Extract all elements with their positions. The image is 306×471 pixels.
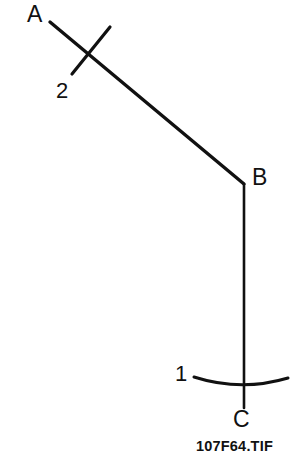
vertex-label-b: B bbox=[252, 166, 267, 189]
vertex-label-a: A bbox=[27, 3, 42, 26]
figure-root: A B C 2 1 107F64.TIF bbox=[0, 0, 306, 471]
diagram-canvas bbox=[0, 0, 306, 471]
tick-label-2: 2 bbox=[56, 80, 68, 102]
filename-caption: 107F64.TIF bbox=[196, 439, 273, 454]
canvas-background bbox=[0, 0, 306, 471]
tick-label-1: 1 bbox=[175, 363, 187, 385]
vertex-label-c: C bbox=[233, 408, 250, 431]
